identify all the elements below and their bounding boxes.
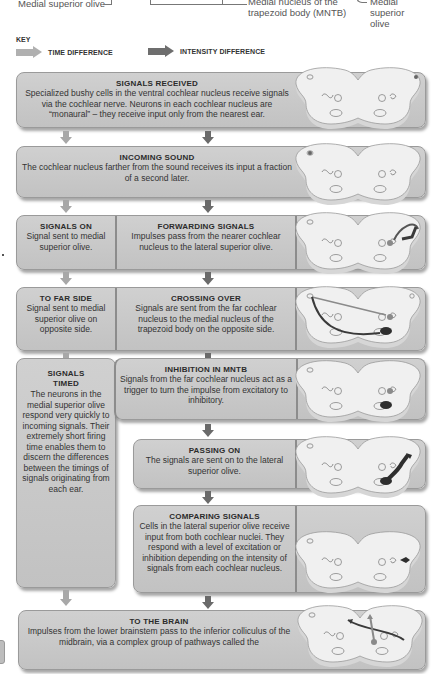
step-signals-on: SIGNALS ON Signal sent to medial superio… bbox=[17, 216, 115, 269]
label-medial-superior-olive-left: Medial superior olive bbox=[18, 0, 105, 9]
key-label-time: TIME DIFFERENCE bbox=[48, 49, 113, 56]
step-signals-timed: SIGNALS TIMED The neurons in the medial … bbox=[16, 358, 116, 588]
time-arrow-icon bbox=[60, 590, 72, 608]
step-body: Cells in the lateral superior olive rece… bbox=[134, 521, 295, 574]
intensity-arrow-icon bbox=[202, 424, 214, 438]
step-title: FORWARDING SIGNALS bbox=[117, 222, 295, 231]
label-right-line1: Medial bbox=[370, 0, 404, 7]
step-title: SIGNALS TIMED bbox=[17, 369, 115, 389]
offscreen-panel-fragment bbox=[0, 640, 5, 664]
step-title: SIGNALS RECEIVED bbox=[17, 79, 297, 88]
time-arrow-icon bbox=[60, 272, 72, 286]
step-body: The signals are sent on to the lateral s… bbox=[134, 455, 295, 476]
step-body: Specialized bushy cells in the ventral c… bbox=[17, 88, 297, 120]
brainstem-diagram-2 bbox=[290, 138, 430, 212]
step-body: Impulses pass from the nearer cochlear n… bbox=[117, 231, 295, 252]
leader-line-right bbox=[356, 0, 367, 3]
step-body: Signal sent to medial superior olive on … bbox=[17, 303, 115, 335]
step-body: Signals are sent from the far cochlear n… bbox=[117, 303, 295, 335]
key-label-intensity: INTENSITY DIFFERENCE bbox=[180, 48, 265, 55]
leader-line-center bbox=[150, 0, 247, 5]
brainstem-diagram-3 bbox=[290, 207, 430, 281]
leader-line-center-tick bbox=[222, 0, 223, 4]
intensity-arrow-icon bbox=[202, 200, 214, 214]
time-arrow-icon bbox=[60, 131, 72, 145]
brainstem-diagram-1 bbox=[290, 62, 430, 136]
step-body: Impulses from the lower brainstem pass t… bbox=[19, 626, 299, 647]
step-body: The neurons in the medial superior olive… bbox=[17, 389, 115, 494]
step-forwarding-signals: FORWARDING SIGNALS Impulses pass from th… bbox=[115, 216, 297, 269]
label-right-line2: superior bbox=[370, 7, 404, 18]
intensity-arrow-icon bbox=[202, 491, 214, 505]
time-arrow-icon bbox=[60, 200, 72, 214]
step-title: INHIBITION IN MNTB bbox=[116, 365, 296, 374]
brainstem-diagram-8 bbox=[292, 600, 432, 674]
leader-line-left bbox=[103, 0, 112, 5]
step-body: Signal sent to medial superior olive. bbox=[17, 231, 115, 252]
margin-dot bbox=[2, 254, 4, 256]
step-body: The cochlear nucleus farther from the so… bbox=[17, 162, 297, 183]
step-title: SIGNALS ON bbox=[17, 222, 115, 231]
time-difference-arrow-icon bbox=[16, 49, 42, 56]
label-mntb: Medial nucleus of the trapezoid body (MN… bbox=[248, 0, 346, 18]
brainstem-diagram-6 bbox=[290, 431, 430, 505]
step-crossing-over: CROSSING OVER Signals are sent from the … bbox=[115, 288, 297, 350]
step-title: COMPARING SIGNALS bbox=[134, 512, 295, 521]
step-body: Signals from the far cochlear nucleus ac… bbox=[116, 374, 296, 406]
step-title: INCOMING SOUND bbox=[17, 153, 297, 162]
step-title: PASSING ON bbox=[134, 446, 295, 455]
label-medial-superior-olive-right: Medial superior olive bbox=[370, 0, 404, 29]
step-title: TO THE BRAIN bbox=[19, 617, 299, 626]
intensity-arrow-icon bbox=[202, 272, 214, 286]
intensity-arrow-icon bbox=[202, 596, 214, 610]
key-title: KEY bbox=[16, 36, 30, 43]
step-to-far-side: TO FAR SIDE Signal sent to medial superi… bbox=[17, 288, 115, 350]
brainstem-diagram-5 bbox=[290, 355, 430, 429]
brainstem-diagram-4 bbox=[290, 281, 430, 355]
label-mntb-line2: trapezoid body (MNTB) bbox=[248, 7, 346, 18]
label-right-line3: olive bbox=[370, 18, 404, 29]
intensity-arrow-icon bbox=[202, 131, 214, 145]
brainstem-diagram-7 bbox=[290, 526, 430, 600]
step-title: CROSSING OVER bbox=[117, 294, 295, 303]
step-title: TO FAR SIDE bbox=[17, 294, 115, 303]
label-mntb-line1: Medial nucleus of the bbox=[248, 0, 346, 7]
intensity-difference-arrow-icon bbox=[148, 48, 174, 55]
